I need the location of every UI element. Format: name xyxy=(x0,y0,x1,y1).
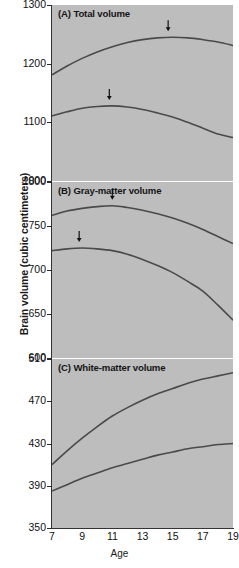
panel-gray-matter-volume: (B) Gray-matter volume xyxy=(52,182,233,358)
x-tick-label-15: 15 xyxy=(166,531,180,542)
y-tick-label-c-350: 350 xyxy=(4,522,46,533)
y-tick-label-c-510: 510 xyxy=(4,353,46,364)
curve-b-lower xyxy=(52,248,233,320)
peak-arrow-b-lower xyxy=(77,231,82,242)
y-tick-mark-a-1300 xyxy=(47,5,52,6)
x-axis-line xyxy=(51,528,234,529)
x-tick-label-13: 13 xyxy=(136,531,150,542)
y-tick-label-a-1100: 1100 xyxy=(4,116,46,127)
curve-c-upper xyxy=(52,373,233,465)
y-tick-mark-c-510 xyxy=(47,359,52,360)
x-axis-label: Age xyxy=(0,548,239,559)
x-tick-label-9: 9 xyxy=(75,531,89,542)
x-tick-label-11: 11 xyxy=(105,531,119,542)
x-tick-label-17: 17 xyxy=(196,531,210,542)
y-tick-mark-c-430 xyxy=(47,444,52,445)
y-tick-label-b-700: 700 xyxy=(4,264,46,275)
y-tick-mark-c-350 xyxy=(47,528,52,529)
y-tick-label-a-1300: 1300 xyxy=(4,0,46,10)
y-tick-label-c-470: 470 xyxy=(4,395,46,406)
peak-arrow-b-upper xyxy=(110,189,115,200)
y-tick-label-b-750: 750 xyxy=(4,220,46,231)
x-tick-label-7: 7 xyxy=(45,531,59,542)
y-tick-mark-c-390 xyxy=(47,486,52,487)
y-tick-mark-b-750 xyxy=(47,226,52,227)
y-tick-mark-c-470 xyxy=(47,401,52,402)
panel-plot-a xyxy=(52,5,233,181)
y-tick-label-b-650: 650 xyxy=(4,308,46,319)
panel-total-volume: (A) Total volume xyxy=(52,5,233,181)
x-tick-label-19: 19 xyxy=(226,531,239,542)
peak-arrow-a-lower xyxy=(107,89,112,100)
panel-plot-c xyxy=(52,359,233,528)
y-tick-mark-b-700 xyxy=(47,270,52,271)
y-tick-label-c-430: 430 xyxy=(4,438,46,449)
curve-a-upper xyxy=(52,37,233,75)
curve-a-lower xyxy=(52,106,233,138)
panel-plot-b xyxy=(52,182,233,358)
y-tick-mark-a-1200 xyxy=(47,64,52,65)
y-tick-label-b-800: 800 xyxy=(4,176,46,187)
y-tick-label-c-390: 390 xyxy=(4,480,46,491)
figure-brain-volume-by-age: Brain volume (cubic centimeters) Age (A)… xyxy=(0,0,239,568)
y-tick-mark-b-650 xyxy=(47,314,52,315)
peak-arrow-a-upper xyxy=(166,20,171,31)
y-tick-mark-b-800 xyxy=(47,182,52,183)
y-tick-label-a-1200: 1200 xyxy=(4,58,46,69)
y-tick-mark-a-1100 xyxy=(47,122,52,123)
curve-c-lower xyxy=(52,444,233,492)
panel-white-matter-volume: (C) White-matter volume xyxy=(52,359,233,528)
